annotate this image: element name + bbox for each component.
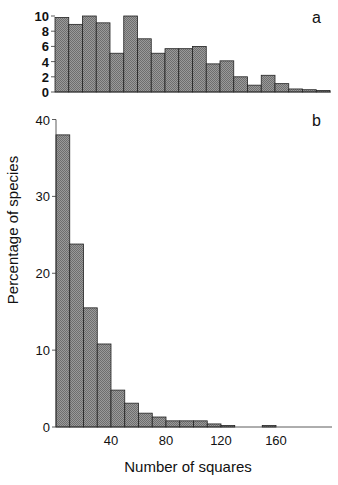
histogram-bar xyxy=(97,344,111,427)
histogram-bar xyxy=(152,417,166,427)
y-axis-title: Percentage of species xyxy=(4,156,21,304)
histogram-bar xyxy=(125,403,139,427)
panel-label-a: a xyxy=(312,9,321,26)
histogram-bar xyxy=(289,89,303,92)
histogram-bar xyxy=(70,244,84,427)
y-tick-label: 40 xyxy=(36,113,50,128)
histogram-bar xyxy=(139,413,153,427)
histogram-bar xyxy=(69,24,83,92)
y-tick-label: 30 xyxy=(36,189,50,204)
x-axis-title: Number of squares xyxy=(124,458,252,475)
histogram-bar xyxy=(220,61,234,92)
y-tick-label: 0 xyxy=(42,85,49,100)
histogram-bar xyxy=(96,23,110,92)
y-tick-label: 6 xyxy=(42,39,49,54)
y-tick-label: 10 xyxy=(35,9,49,24)
histogram-bar xyxy=(151,53,165,92)
x-tick-label: 80 xyxy=(159,433,173,448)
x-tick-label: 120 xyxy=(210,433,232,448)
histogram-panel-a: 0246810 xyxy=(35,9,331,100)
histogram-bar xyxy=(166,421,180,427)
histogram-bar xyxy=(207,424,221,427)
histogram-bar xyxy=(193,46,207,92)
y-tick-label: 0 xyxy=(43,420,50,435)
histogram-bar xyxy=(165,49,179,92)
histogram-bar xyxy=(55,18,69,92)
y-tick-label: 4 xyxy=(42,55,50,70)
y-tick-label: 20 xyxy=(36,266,50,281)
histogram-bar xyxy=(84,308,98,427)
y-tick-label: 8 xyxy=(42,24,49,39)
histogram-bar xyxy=(194,421,208,427)
histogram-bar xyxy=(261,75,275,92)
histogram-bar xyxy=(83,16,97,92)
histogram-bar xyxy=(248,85,262,92)
histogram-bar xyxy=(234,77,248,92)
x-tick-label: 40 xyxy=(104,433,118,448)
histogram-bar xyxy=(111,390,125,427)
histogram-bar xyxy=(206,64,220,92)
histogram-bar xyxy=(180,421,194,427)
y-tick-label: 2 xyxy=(42,70,49,85)
y-tick-label: 10 xyxy=(36,343,50,358)
chart-figure: 0246810 0102030404080120160 a b Percenta… xyxy=(0,0,338,485)
histogram-bar xyxy=(110,53,124,92)
histogram-bar xyxy=(124,16,138,92)
x-tick-label: 160 xyxy=(265,433,287,448)
histogram-bar xyxy=(179,49,193,92)
panel-label-b: b xyxy=(312,112,321,129)
histogram-bar xyxy=(275,84,289,92)
histogram-panel-b: 0102030404080120160 xyxy=(36,113,332,449)
histogram-bar xyxy=(138,39,152,92)
histogram-bar xyxy=(56,135,70,427)
